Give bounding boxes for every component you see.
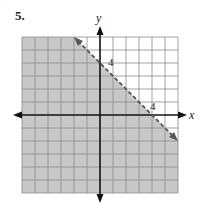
y-axis-up-arrow-icon bbox=[97, 26, 104, 35]
x-axis-right-arrow-icon bbox=[178, 112, 187, 119]
y-axis-down-arrow-icon bbox=[97, 194, 104, 203]
y-axis-label: y bbox=[95, 11, 102, 25]
x-axis-left-arrow-icon bbox=[13, 112, 22, 119]
y-tick-label-4: 4 bbox=[108, 56, 114, 68]
x-axis-label: x bbox=[188, 108, 195, 122]
x-tick-label-4: 4 bbox=[150, 100, 156, 112]
coordinate-plane: y x 4 4 bbox=[0, 0, 207, 210]
